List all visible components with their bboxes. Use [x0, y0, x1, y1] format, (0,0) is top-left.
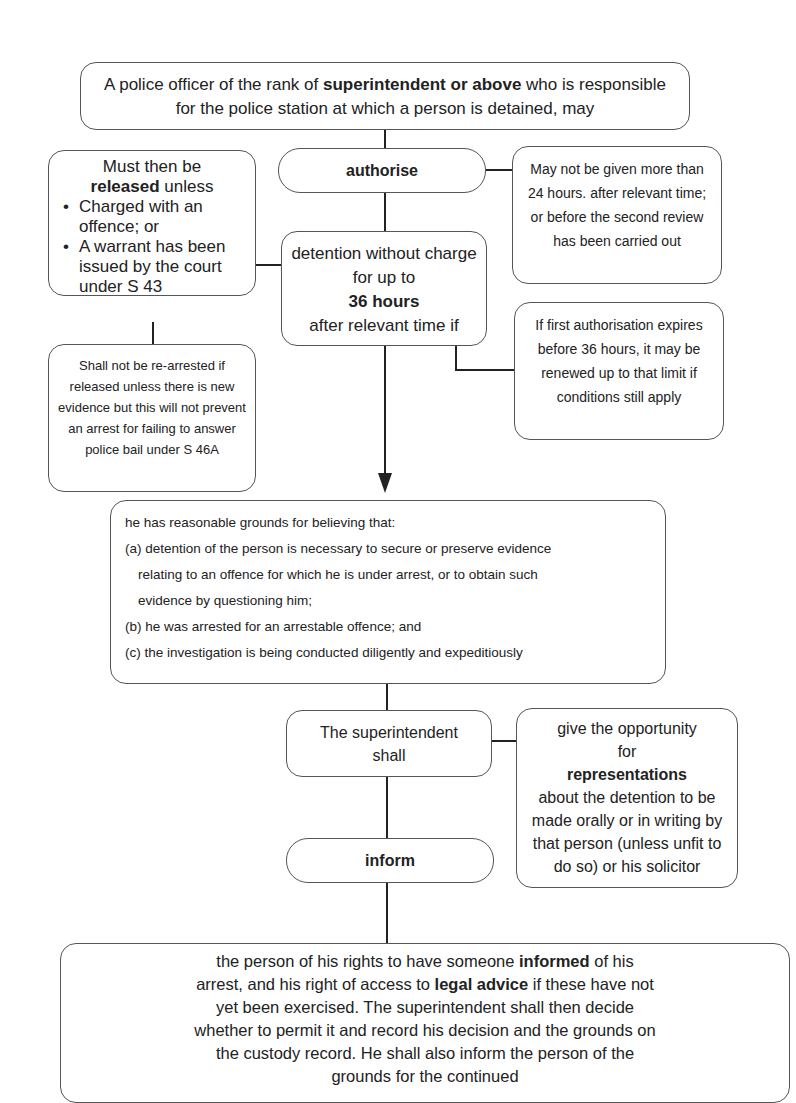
ground-c: (c) the investigation is being conducted… [125, 640, 651, 666]
connector-authorise-to-limit [486, 169, 512, 171]
ground-b: (b) he was arrested for an arrestable of… [125, 614, 651, 640]
informed-emphasis: informed [519, 952, 590, 970]
legal-advice-emphasis: legal advice [435, 975, 529, 993]
connector-grounds-to-superintendent [386, 684, 388, 712]
superintendent-shall-box: The superintendent shall [286, 710, 492, 777]
representations-box: give the opportunity for representations… [516, 708, 738, 888]
connector-detention-to-grounds [384, 345, 386, 475]
authorise-box: authorise [278, 148, 486, 193]
ground-a: (a) detention of the person is necessary… [125, 536, 651, 562]
list-item: A warrant has been issued by the court u… [63, 237, 251, 297]
36-hours-emphasis: 36 hours [349, 292, 420, 311]
connector-superintendent-to-representations [492, 740, 518, 742]
representations-emphasis: representations [567, 766, 687, 783]
connector-detention-to-renew [455, 345, 457, 371]
release-box: Must then be released unless Charged wit… [48, 150, 256, 296]
connector-top-to-authorise [384, 130, 386, 148]
connector-release-to-rearrest [152, 322, 154, 344]
inform-box: inform [286, 838, 494, 883]
time-limit-box: May not be given more than 24 hours. aft… [512, 146, 722, 284]
detention-box: detention without charge for up to 36 ho… [281, 231, 487, 346]
ground-a-cont: relating to an offence for which he is u… [125, 562, 651, 588]
superintendent-emphasis: superintendent or above [323, 75, 521, 94]
rearrest-box: Shall not be re-arrested if released unl… [48, 344, 256, 492]
connector-superintendent-to-inform [386, 776, 388, 838]
released-emphasis: released [91, 177, 160, 196]
arrow-down-icon [378, 473, 392, 493]
connector-release-to-detention [256, 264, 282, 266]
rights-box: the person of his rights to have someone… [60, 943, 790, 1103]
renewal-box: If first authorisation expires before 36… [514, 302, 724, 440]
connector-authorise-to-detention [384, 193, 386, 231]
grounds-box: he has reasonable grounds for believing … [110, 500, 666, 684]
connector-inform-to-rights [386, 882, 388, 944]
top-box-superintendent-authority: A police officer of the rank of superint… [80, 62, 690, 130]
ground-a-cont: evidence by questioning him; [125, 588, 651, 614]
list-item: Charged with an offence; or [63, 197, 251, 237]
release-conditions-list: Charged with an offence; or A warrant ha… [53, 197, 251, 297]
connector-detention-to-renew-h [455, 369, 515, 371]
